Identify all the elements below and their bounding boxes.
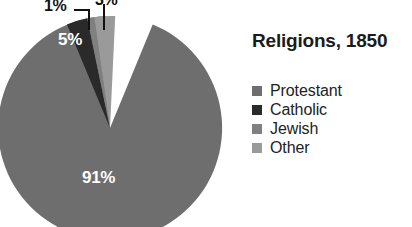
legend-label: Jewish xyxy=(270,120,318,138)
legend-item-other: Other xyxy=(252,139,342,157)
slice-value-other: 3% xyxy=(95,0,118,9)
legend-item-protestant: Protestant xyxy=(252,82,342,100)
legend-item-jewish: Jewish xyxy=(252,120,342,138)
slice-value-jewish: 1% xyxy=(44,0,67,15)
chart-root: 91% 5% 1% 3% Religions, 1850 Protestant … xyxy=(0,0,412,227)
legend-swatch-icon xyxy=(252,143,262,153)
slice-value-catholic: 5% xyxy=(58,30,82,50)
chart-title: Religions, 1850 xyxy=(252,30,387,52)
legend-label: Other xyxy=(270,139,310,157)
legend-swatch-icon xyxy=(252,124,262,134)
slice-value-protestant: 91% xyxy=(82,168,115,188)
legend-swatch-icon xyxy=(252,105,262,115)
pie-chart: 91% 5% 1% 3% xyxy=(0,0,238,227)
legend-label: Protestant xyxy=(270,82,342,100)
legend-item-catholic: Catholic xyxy=(252,101,342,119)
legend: Protestant Catholic Jewish Other xyxy=(252,82,342,158)
legend-label: Catholic xyxy=(270,101,327,119)
legend-swatch-icon xyxy=(252,86,262,96)
legend-block: Religions, 1850 Protestant Catholic Jewi… xyxy=(252,0,412,227)
pie-svg xyxy=(0,0,238,227)
